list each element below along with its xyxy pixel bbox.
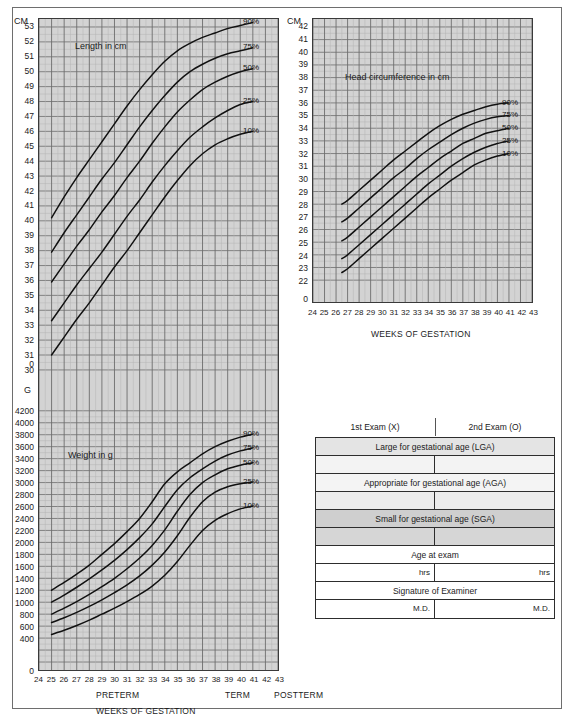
exam-header-first: 1st Exam (X) xyxy=(315,417,435,437)
exam-header-divider xyxy=(435,418,436,436)
head-y-tick: 37 xyxy=(274,86,308,95)
exam-classification-table: 1st Exam (X) 2nd Exam (O) Large for gest… xyxy=(315,417,555,619)
weight-x-tick: 40 xyxy=(235,676,248,684)
head-percentile-label: 10% xyxy=(502,150,518,158)
weight-x-tick: 41 xyxy=(248,676,261,684)
length-percentile-label: 25% xyxy=(243,97,259,105)
weight-y-tick: 3800 xyxy=(0,431,34,440)
weight-y-tick: 3200 xyxy=(0,467,34,476)
weight-x-tick: 25 xyxy=(45,676,58,684)
head-x-tick: 43 xyxy=(527,309,540,317)
exam-cell-second[interactable]: hrs xyxy=(435,564,554,581)
exam-cell-first[interactable]: hrs xyxy=(316,564,435,581)
head-y-tick: 36 xyxy=(274,99,308,108)
exam-entry-row[interactable] xyxy=(316,492,554,510)
weight-x-tick: 36 xyxy=(184,676,197,684)
head-y-tick: 27 xyxy=(274,213,308,222)
head-percentile-label: 50% xyxy=(502,124,518,132)
weight-x-tick: 38 xyxy=(210,676,223,684)
length-y-tick: 50 xyxy=(0,67,34,76)
exam-cell-first[interactable] xyxy=(316,492,435,509)
exam-cell-first[interactable] xyxy=(316,528,435,545)
head-y-tick: 24 xyxy=(274,252,308,261)
length-weight-plot-area xyxy=(38,18,279,671)
exam-table-header: 1st Exam (X) 2nd Exam (O) xyxy=(315,417,555,437)
head-y-tick: 26 xyxy=(274,226,308,235)
weight-x-tick: 28 xyxy=(83,676,96,684)
weight-percentile-label: 25% xyxy=(243,478,259,486)
length-y-tick: 34 xyxy=(0,306,34,315)
exam-cell-first[interactable] xyxy=(316,456,435,473)
stage-label-term: TERM xyxy=(225,691,250,700)
exam-cell-second[interactable]: M.D. xyxy=(435,600,554,618)
head-y-tick: 39 xyxy=(274,60,308,69)
exam-cell-second[interactable] xyxy=(435,528,554,545)
length-y-tick: 33 xyxy=(0,321,34,330)
exam-category-row[interactable]: Large for gestational age (LGA) xyxy=(316,438,554,456)
exam-category-row[interactable]: Appropriate for gestational age (AGA) xyxy=(316,474,554,492)
length-y-tick: 45 xyxy=(0,142,34,151)
length-plot-title: Length in cm xyxy=(75,42,127,51)
weight-y-tick: 1000 xyxy=(0,599,34,608)
exam-category-label: Large for gestational age (LGA) xyxy=(375,438,494,456)
length-y-tick: 48 xyxy=(0,97,34,106)
head-y-tick: 32 xyxy=(274,150,308,159)
weight-percentile-label: 10% xyxy=(243,502,259,510)
weight-y-tick: 2800 xyxy=(0,491,34,500)
weight-x-tick: 31 xyxy=(121,676,134,684)
weight-x-tick: 27 xyxy=(70,676,83,684)
weight-y-tick: 600 xyxy=(0,623,34,632)
exam-cell-second[interactable] xyxy=(435,456,554,473)
exam-entry-row[interactable]: hrshrs xyxy=(316,564,554,582)
length-y-tick: 39 xyxy=(0,231,34,240)
length-percentile-label: 90% xyxy=(243,18,259,26)
weight-y-tick: 4000 xyxy=(0,419,34,428)
exam-entry-row[interactable] xyxy=(316,528,554,546)
stage-label-postterm: POSTTERM xyxy=(274,691,323,700)
exam-table-body: Large for gestational age (LGA)Appropria… xyxy=(315,437,555,619)
head-plot-title: Head circumference in cm xyxy=(345,73,450,82)
head-y-tick: 38 xyxy=(274,73,308,82)
exam-header-second: 2nd Exam (O) xyxy=(435,417,555,437)
exam-cell-first[interactable]: M.D. xyxy=(316,600,435,618)
head-y-tick: 29 xyxy=(274,188,308,197)
length-y-tick: 42 xyxy=(0,187,34,196)
exam-category-row[interactable]: Signature of Examiner xyxy=(316,582,554,600)
head-x-axis-caption: WEEKS OF GESTATION xyxy=(371,330,471,339)
head-y-tick: 31 xyxy=(274,162,308,171)
exam-category-row[interactable]: Small for gestational age (SGA) xyxy=(316,510,554,528)
weight-y-tick: 400 xyxy=(0,635,34,644)
head-y-tick: 40 xyxy=(274,48,308,57)
weight-y-tick: 3400 xyxy=(0,455,34,464)
exam-category-row[interactable]: Age at exam xyxy=(316,546,554,564)
length-y-tick: 37 xyxy=(0,261,34,270)
weight-y-tick: 3000 xyxy=(0,479,34,488)
length-axis-zero: 0 xyxy=(0,360,34,369)
weight-x-tick: 24 xyxy=(32,676,45,684)
length-y-tick: 46 xyxy=(0,127,34,136)
weight-x-tick: 42 xyxy=(260,676,273,684)
weight-x-tick: 29 xyxy=(95,676,108,684)
head-y-tick: 25 xyxy=(274,239,308,248)
weight-y-tick: 2400 xyxy=(0,515,34,524)
length-y-tick: 53 xyxy=(0,22,34,31)
weight-x-tick: 35 xyxy=(172,676,185,684)
length-y-tick: 40 xyxy=(0,216,34,225)
head-y-tick: 42 xyxy=(274,22,308,31)
length-percentile-label: 50% xyxy=(243,64,259,72)
exam-category-label: Age at exam xyxy=(411,546,459,564)
length-y-tick: 32 xyxy=(0,336,34,345)
exam-entry-row[interactable] xyxy=(316,456,554,474)
exam-category-label: Appropriate for gestational age (AGA) xyxy=(364,474,506,492)
weight-percentile-label: 75% xyxy=(243,444,259,452)
stage-label-preterm: PRETERM xyxy=(96,691,139,700)
weight-plot-title: Weight in g xyxy=(68,451,113,460)
head-y-tick: 23 xyxy=(274,264,308,273)
head-y-tick: 34 xyxy=(274,124,308,133)
weight-y-tick: 2000 xyxy=(0,539,34,548)
weight-x-tick: 30 xyxy=(108,676,121,684)
weight-percentile-label: 50% xyxy=(243,459,259,467)
exam-cell-second[interactable] xyxy=(435,492,554,509)
length-y-tick: 44 xyxy=(0,157,34,166)
exam-entry-row[interactable]: M.D.M.D. xyxy=(316,600,554,618)
